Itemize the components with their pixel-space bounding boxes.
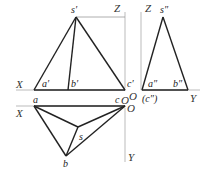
label-y-right: Y <box>190 92 198 104</box>
label-y-lower: Y <box>128 151 136 163</box>
edge-s-c-top <box>78 106 125 127</box>
edge-s-c-front <box>76 17 125 90</box>
label-c-double-prime: (c″) <box>142 93 158 105</box>
label-a-double-prime: a″ <box>148 78 158 89</box>
label-c-prime: c′ <box>127 78 134 89</box>
projection-diagram: s′ a′ b′ c′ s″ a″ b″ (c″) a c s b X X Z … <box>0 0 206 171</box>
edge-b-c-top <box>66 106 125 156</box>
label-a: a <box>33 94 38 105</box>
label-z-left: Z <box>114 2 121 14</box>
label-origin-2: O <box>129 90 137 102</box>
label-c: c <box>115 94 120 105</box>
label-s-prime: s′ <box>71 4 78 15</box>
label-x-upper: X <box>15 78 24 90</box>
label-b-double-prime: b″ <box>173 78 183 89</box>
label-b-prime: b′ <box>71 78 79 89</box>
label-origin-3: O <box>127 102 135 114</box>
label-a-prime: a′ <box>42 78 50 89</box>
label-b: b <box>63 158 68 169</box>
label-s: s <box>79 131 83 142</box>
label-z-right: Z <box>145 2 152 14</box>
label-s-double-prime: s″ <box>160 4 169 15</box>
label-x-lower: X <box>15 107 24 119</box>
